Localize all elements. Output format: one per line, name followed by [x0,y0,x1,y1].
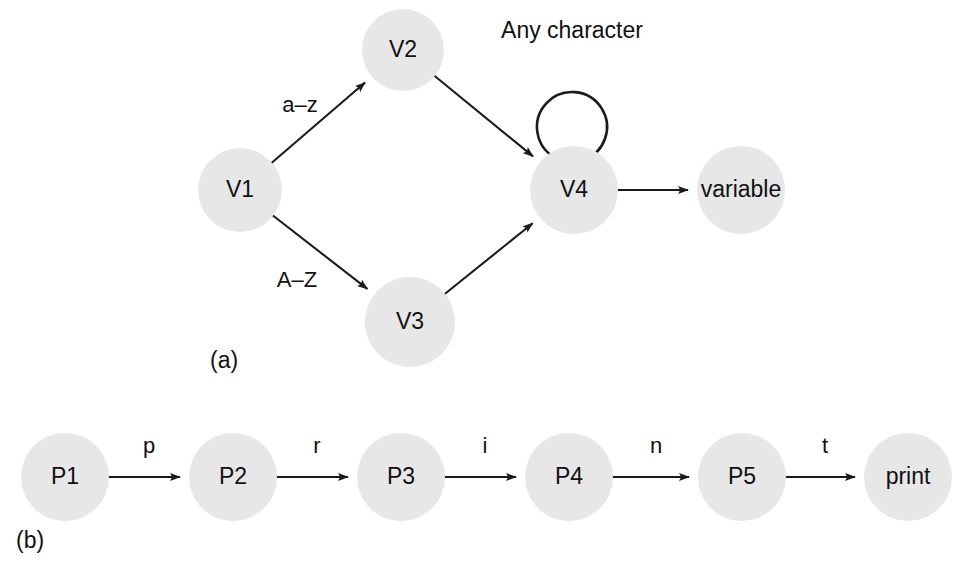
node-label-v2: V2 [389,36,417,62]
node-label-p4: P4 [555,463,583,489]
panel-caption-panel-a: (a) [210,347,238,373]
edge-label-p1-p2: p [143,433,155,458]
node-label-v3: V3 [396,308,424,334]
edge-label-v1-v3: A–Z [277,267,317,292]
node-label-p5: P5 [728,463,756,489]
node-label-print: print [886,463,931,489]
labels-layer: a–zA–ZAny characterV1V2V3V4variable(a)pr… [16,17,931,553]
edge-label-v1-v2: a–z [282,92,317,117]
edges-layer [107,75,855,477]
edge-label-p3-p4: i [483,433,488,458]
node-label-v1: V1 [226,176,254,202]
self-loop-label-v4: Any character [501,17,643,43]
panel-caption-panel-b: (b) [16,527,44,553]
figure-root: a–zA–ZAny characterV1V2V3V4variable(a)pr… [0,0,966,581]
node-label-p3: P3 [387,463,415,489]
node-label-v4: V4 [560,176,588,202]
node-label-variable: variable [701,176,782,202]
edge-label-p2-p3: r [313,433,320,458]
edge-v3-to-v4 [443,223,532,295]
state-machine-diagram: a–zA–ZAny characterV1V2V3V4variable(a)pr… [0,0,966,581]
edge-label-p5-print: t [822,433,828,458]
edge-label-p4-p5: n [650,433,662,458]
node-label-p2: P2 [219,463,247,489]
edge-v2-to-v4 [433,75,533,157]
node-label-p1: P1 [51,463,79,489]
